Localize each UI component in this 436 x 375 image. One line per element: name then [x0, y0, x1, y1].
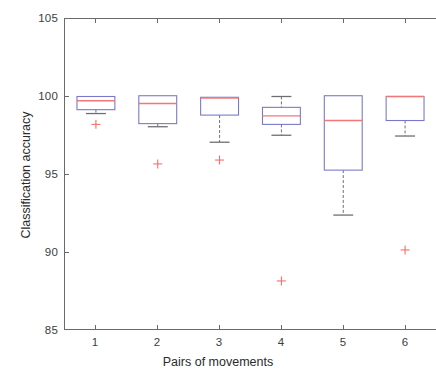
- x-axis-tick-label: 5: [340, 336, 346, 348]
- x-axis-tick-label: 6: [402, 336, 408, 348]
- outlier-marker: [153, 159, 162, 168]
- box-plot-group: [77, 97, 115, 129]
- x-axis-title: Pairs of movements: [0, 355, 436, 369]
- box-plot-group: [201, 97, 239, 164]
- x-axis-tick-mark: [157, 325, 158, 330]
- box-rect: [324, 96, 362, 170]
- x-axis-tick-label: 1: [92, 336, 98, 348]
- boxplot-canvas: [65, 19, 436, 329]
- y-axis-title: Classification accuracy: [19, 65, 33, 285]
- x-axis-tick-mark: [219, 325, 220, 330]
- x-axis-tick-label: 4: [278, 336, 284, 348]
- x-axis-tick-mark: [405, 325, 406, 330]
- box-plot-group: [262, 97, 300, 286]
- box-plot-group: [139, 96, 177, 169]
- y-axis-tick-label: 100: [38, 90, 58, 102]
- x-axis-tick-label: 2: [154, 336, 160, 348]
- x-axis-tick-mark: [281, 325, 282, 330]
- x-axis-top-tick-mark: [405, 18, 406, 23]
- box-rect: [386, 97, 424, 121]
- box-rect: [77, 97, 115, 110]
- box-plot-group: [386, 97, 424, 255]
- plot-area: [64, 18, 436, 330]
- y-axis-tick-mark: [64, 174, 69, 175]
- x-axis-top-tick-mark: [95, 18, 96, 23]
- x-axis-tick-mark: [95, 325, 96, 330]
- outlier-marker: [401, 245, 410, 254]
- y-axis-tick-label: 105: [38, 12, 58, 24]
- y-axis-tick-mark: [64, 252, 69, 253]
- box-plot-group: [324, 96, 362, 215]
- y-axis-tick-mark: [64, 96, 69, 97]
- x-axis-top-tick-mark: [281, 18, 282, 23]
- y-axis-tick-label: 90: [45, 246, 58, 258]
- y-axis-tick-label: 85: [45, 324, 58, 336]
- y-axis-tick-label: 95: [45, 168, 58, 180]
- boxplot-figure: 859095100105 Classification accuracy Pai…: [0, 0, 436, 375]
- x-axis-tick-mark: [343, 325, 344, 330]
- x-axis-top-tick-mark: [343, 18, 344, 23]
- box-rect: [201, 97, 239, 115]
- outlier-marker: [91, 120, 100, 129]
- x-axis-top-tick-mark: [219, 18, 220, 23]
- x-axis-top-tick-mark: [157, 18, 158, 23]
- x-axis-tick-label: 3: [216, 336, 222, 348]
- outlier-marker: [215, 156, 224, 165]
- outlier-marker: [277, 276, 286, 285]
- box-rect: [139, 96, 177, 124]
